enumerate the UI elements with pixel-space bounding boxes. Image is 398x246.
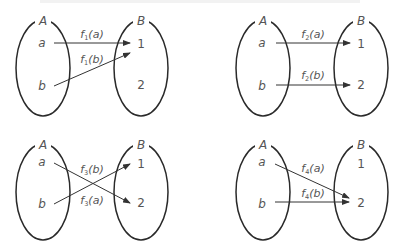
element-1: 1	[357, 157, 365, 171]
element-1: 1	[137, 157, 145, 171]
element-1: 1	[137, 37, 145, 51]
element-a: a	[38, 155, 45, 169]
function-mapping-diagrams: A B a b 1 2 f1(a) f1(b) A B a b 1 2 f2(a…	[0, 0, 398, 246]
element-a: a	[38, 36, 45, 50]
set-b-ellipse	[114, 20, 168, 116]
set-b-label: B	[357, 138, 365, 152]
label-f2-b: f2(b)	[301, 69, 325, 83]
element-a: a	[258, 36, 265, 50]
label-f4-b: f4(b)	[301, 187, 325, 201]
set-a-ellipse	[236, 20, 290, 116]
element-2: 2	[137, 78, 145, 92]
panel-f1: A B a b 1 2 f1(a) f1(b)	[16, 14, 168, 116]
element-b: b	[258, 197, 266, 211]
set-b-label: B	[357, 14, 365, 28]
label-f3-a: f3(a)	[80, 194, 103, 208]
label-f1-a: f1(a)	[80, 28, 103, 42]
element-b: b	[38, 79, 46, 93]
set-a-label: A	[258, 138, 267, 152]
set-a-label: A	[258, 14, 267, 28]
label-f1-b: f1(b)	[80, 53, 104, 67]
element-2: 2	[357, 78, 365, 92]
panel-f4: A B a b 1 2 f4(a) f4(b)	[236, 138, 388, 240]
set-b-label: B	[137, 14, 145, 28]
label-f4-a: f4(a)	[301, 162, 324, 176]
set-a-label: A	[38, 14, 47, 28]
set-b-ellipse	[334, 20, 388, 116]
label-f2-a: f2(a)	[301, 28, 324, 42]
set-b-label: B	[137, 138, 145, 152]
set-a-ellipse	[16, 20, 70, 116]
panel-f3: A B a b 1 2 f3(b) f3(a)	[16, 138, 168, 240]
element-2: 2	[357, 196, 365, 210]
element-1: 1	[357, 37, 365, 51]
element-b: b	[258, 79, 266, 93]
element-2: 2	[137, 196, 145, 210]
element-a: a	[258, 155, 265, 169]
element-b: b	[38, 197, 46, 211]
panel-f2: A B a b 1 2 f2(a) f2(b)	[236, 14, 388, 116]
set-a-label: A	[38, 138, 47, 152]
label-f3-b: f3(b)	[80, 163, 104, 177]
